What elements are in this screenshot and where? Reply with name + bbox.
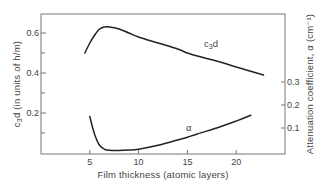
left-y-tick-label: 0.4 [26,68,39,78]
c3d-curve-label: c3d [204,38,218,50]
x-tick-label: 20 [231,157,241,167]
right-y-tick-label: 0.2 [287,100,300,110]
left-y-axis-ticks: 0.20.40.6 [26,28,46,133]
x-tick-label: 15 [182,157,192,167]
right-y-tick-label: 0.3 [287,77,300,87]
plot-frame [41,14,285,154]
left-y-tick-label: 0.6 [26,28,39,38]
x-axis-title: Film thickness (atomic layers) [97,169,228,180]
right-y-tick-label: 0.1 [287,123,300,133]
x-tick-label: 5 [87,157,92,167]
chart: 5101520 0.20.40.6 0.10.20.3 c3d α Film t… [0,0,324,185]
alpha-curve [90,115,251,150]
alpha-curve-label: α [186,122,192,133]
x-axis-ticks: 5101520 [87,150,241,167]
c3d-curve [85,27,264,75]
right-y-axis-title: Attenuation coefficient, α (cm⁻¹) [304,14,315,154]
left-y-tick-label: 0.2 [26,108,39,118]
data-curves [85,27,264,151]
left-y-axis-title: c3d (in units of h/m) [11,41,23,127]
x-tick-label: 10 [134,157,144,167]
right-y-axis-ticks: 0.10.20.3 [281,77,300,133]
